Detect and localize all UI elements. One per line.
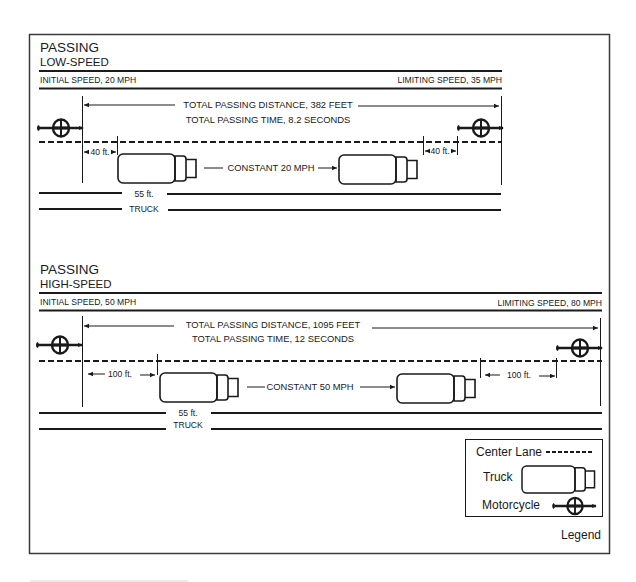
low-total-time: TOTAL PASSING TIME, 8.2 SECONDS xyxy=(186,114,351,125)
motorcycle-icon xyxy=(557,340,603,357)
high-limiting-speed: LIMITING SPEED, 80 MPH xyxy=(497,298,602,308)
high-gap-left: 100 ft. xyxy=(108,369,132,379)
truck-icon xyxy=(160,373,238,402)
truck-icon xyxy=(118,154,196,183)
high-initial-speed: INITIAL SPEED, 50 MPH xyxy=(40,297,136,307)
legend-title: Legend xyxy=(561,528,601,542)
passing-diagram: PASSING LOW-SPEED INITIAL SPEED, 20 MPH … xyxy=(0,0,636,582)
high-speed-title: PASSING xyxy=(40,262,99,277)
legend-item-motorcycle: Motorcycle xyxy=(482,498,540,512)
motorcycle-icon xyxy=(553,498,597,514)
high-speed-section: PASSING HIGH-SPEED INITIAL SPEED, 50 MPH… xyxy=(37,262,603,430)
high-truck-length: 55 ft. xyxy=(178,408,197,418)
low-gap-right: 40 ft. xyxy=(430,146,449,156)
truck-icon xyxy=(397,374,475,403)
high-truck-label: TRUCK xyxy=(173,420,203,430)
legend-item-center-lane: Center Lane xyxy=(476,445,542,459)
low-speed-title: PASSING xyxy=(40,40,99,55)
low-gap-left: 40 ft. xyxy=(90,147,109,157)
high-constant-speed: CONSTANT 50 MPH xyxy=(266,381,353,392)
low-speed-section: PASSING LOW-SPEED INITIAL SPEED, 20 MPH … xyxy=(38,40,504,214)
low-limiting-speed: LIMITING SPEED, 35 MPH xyxy=(397,75,502,85)
legend-item-truck: Truck xyxy=(483,470,514,484)
low-speed-subtitle: LOW-SPEED xyxy=(40,56,109,68)
low-truck-length: 55 ft. xyxy=(134,189,153,199)
motorcycle-icon xyxy=(38,120,84,137)
low-truck-label: TRUCK xyxy=(129,204,159,214)
high-total-distance: TOTAL PASSING DISTANCE, 1095 FEET xyxy=(186,319,361,330)
motorcycle-icon xyxy=(37,337,83,354)
low-constant-speed: CONSTANT 20 MPH xyxy=(227,162,314,173)
high-gap-right: 100 ft. xyxy=(507,370,531,380)
motorcycle-icon xyxy=(458,120,504,137)
high-total-time: TOTAL PASSING TIME, 12 SECONDS xyxy=(192,333,354,344)
truck-icon xyxy=(339,155,417,184)
legend: Center Lane Truck Motorcycle Legend xyxy=(466,440,603,543)
truck-icon xyxy=(522,466,595,493)
low-total-distance: TOTAL PASSING DISTANCE, 382 FEET xyxy=(183,99,353,110)
low-initial-speed: INITIAL SPEED, 20 MPH xyxy=(40,75,136,85)
high-speed-subtitle: HIGH-SPEED xyxy=(40,278,112,290)
